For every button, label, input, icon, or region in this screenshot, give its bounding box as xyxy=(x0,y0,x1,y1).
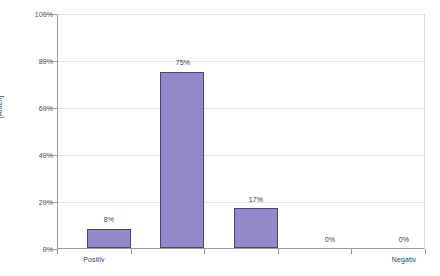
data-label-category-2: 75% xyxy=(176,59,190,66)
x-tick-mark xyxy=(57,249,58,254)
data-label-category-3: 17% xyxy=(249,196,263,203)
bar-chart: [Anteil] 100% 80% 60% 40% 20% 0% 8% 75% … xyxy=(0,0,440,276)
y-tick-mark xyxy=(44,249,57,250)
gridline xyxy=(58,108,424,109)
bar-positiv xyxy=(87,229,131,248)
bar-category-3 xyxy=(234,208,278,248)
gridline xyxy=(58,155,424,156)
x-tick-label-positiv: Positiv xyxy=(83,256,104,263)
y-tick-mark xyxy=(44,202,57,203)
x-tick-mark xyxy=(131,249,132,254)
plot-area xyxy=(57,14,425,249)
data-label-category-4: 0% xyxy=(325,236,335,243)
x-tick-mark xyxy=(278,249,279,254)
y-tick-mark xyxy=(44,61,57,62)
data-label-positiv: 8% xyxy=(104,216,114,223)
bar-category-2 xyxy=(160,72,204,248)
data-label-negativ: 0% xyxy=(399,236,409,243)
x-tick-label-negativ: Negativ xyxy=(392,256,416,263)
x-tick-mark xyxy=(351,249,352,254)
gridline xyxy=(58,202,424,203)
x-tick-mark xyxy=(425,249,426,254)
y-tick-mark xyxy=(44,14,57,15)
y-tick-mark xyxy=(44,108,57,109)
y-tick-mark xyxy=(44,155,57,156)
gridline xyxy=(58,61,424,62)
x-tick-mark xyxy=(204,249,205,254)
